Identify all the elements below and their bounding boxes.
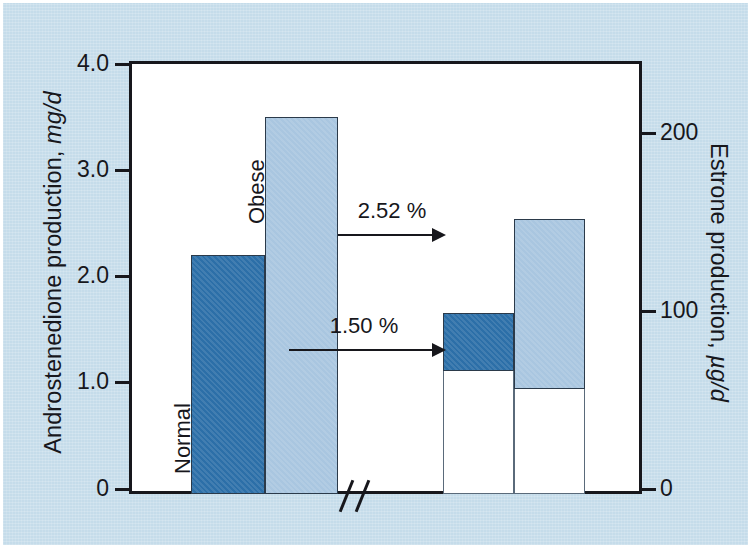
axis-break-stroke-2 xyxy=(355,480,371,513)
y-axis-left-title-unit: mg/d xyxy=(40,91,66,144)
y-axis-left-label-1: 1.0 xyxy=(29,368,109,395)
x-axis-break-marker xyxy=(339,477,383,515)
bar-caption-obese: Obese xyxy=(244,159,270,224)
plot-area: Obese Normal 2.52 % 1.50 % xyxy=(129,61,642,494)
arrow-head-icon xyxy=(432,228,446,242)
y-axis-right-tick-100 xyxy=(642,310,656,313)
figure-panel: Androstenedione production, mg/d Estrone… xyxy=(0,0,751,548)
arrow-head-icon xyxy=(432,343,446,357)
y-axis-right-tick-0 xyxy=(642,488,656,491)
y-axis-left-tick-4 xyxy=(115,63,129,66)
arrow-line xyxy=(338,234,432,236)
y-axis-right-label-200: 200 xyxy=(660,119,750,146)
y-axis-left-label-0: 0 xyxy=(29,475,109,502)
y-axis-left-tick-3 xyxy=(115,169,129,172)
annotation-label-obese: 2.52 % xyxy=(332,198,452,224)
y-axis-right-title-unit: µg/d xyxy=(706,355,732,402)
y-axis-left-tick-0 xyxy=(115,488,129,491)
y-axis-right-label-0: 0 xyxy=(660,475,750,502)
y-axis-left-label-2: 2.0 xyxy=(29,262,109,289)
annotation-label-normal: 1.50 % xyxy=(304,313,424,339)
bar-androstenedione-normal[interactable] xyxy=(191,255,265,494)
y-axis-left-tick-2 xyxy=(115,275,129,278)
y-axis-left-title-text: Androstenedione production, xyxy=(40,144,66,454)
bar-estrone-normal-base xyxy=(443,370,514,494)
bar-estrone-obese-base xyxy=(514,388,585,494)
annotation-arrow-normal: 1.50 % xyxy=(289,349,446,351)
axis-break-stroke-1 xyxy=(339,480,355,513)
y-axis-right-label-100: 100 xyxy=(660,297,750,324)
bar-androstenedione-obese[interactable] xyxy=(265,117,338,494)
bar-caption-normal: Normal xyxy=(170,403,196,474)
bar-estrone-normal[interactable] xyxy=(443,313,514,371)
y-axis-left-label-4: 4.0 xyxy=(29,50,109,77)
annotation-arrow-obese: 2.52 % xyxy=(338,234,446,236)
arrow-line xyxy=(289,349,432,351)
y-axis-left-tick-1 xyxy=(115,381,129,384)
y-axis-left-label-3: 3.0 xyxy=(29,156,109,183)
bar-estrone-obese[interactable] xyxy=(514,219,585,389)
y-axis-right-tick-200 xyxy=(642,132,656,135)
